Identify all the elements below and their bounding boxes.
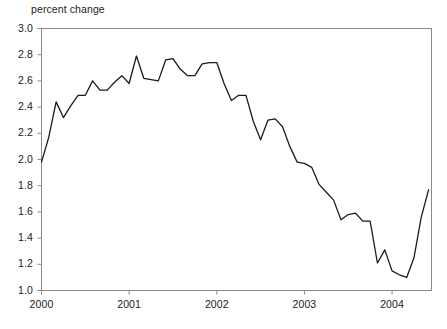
y-tick-label: 2.8 [5,48,33,60]
series-group [42,56,429,277]
x-axis-ticks [42,291,393,295]
y-tick-label: 2.4 [5,100,33,112]
x-tick-label: 2000 [19,298,65,310]
x-tick-label: 2003 [281,298,327,310]
y-tick-label: 2.2 [5,126,33,138]
x-tick-label: 2004 [369,298,415,310]
y-tick-label: 1.2 [5,257,33,269]
y-tick-label: 2.0 [5,153,33,165]
y-tick-label: 1.4 [5,231,33,243]
plot-border [42,29,432,291]
x-tick-label: 2002 [194,298,240,310]
series-line-percent-change [42,56,429,277]
plot-frame [42,29,432,291]
y-tick-label: 3.0 [5,22,33,34]
y-axis-ticks [38,29,42,291]
x-tick-label: 2001 [106,298,152,310]
y-tick-label: 1.6 [5,205,33,217]
y-tick-label: 1.8 [5,179,33,191]
y-tick-label: 2.6 [5,74,33,86]
chart-page: percent change 3.02.82.62.42.22.01.81.61… [0,0,447,329]
line-chart-plot [0,0,447,329]
y-tick-label: 1.0 [5,284,33,296]
